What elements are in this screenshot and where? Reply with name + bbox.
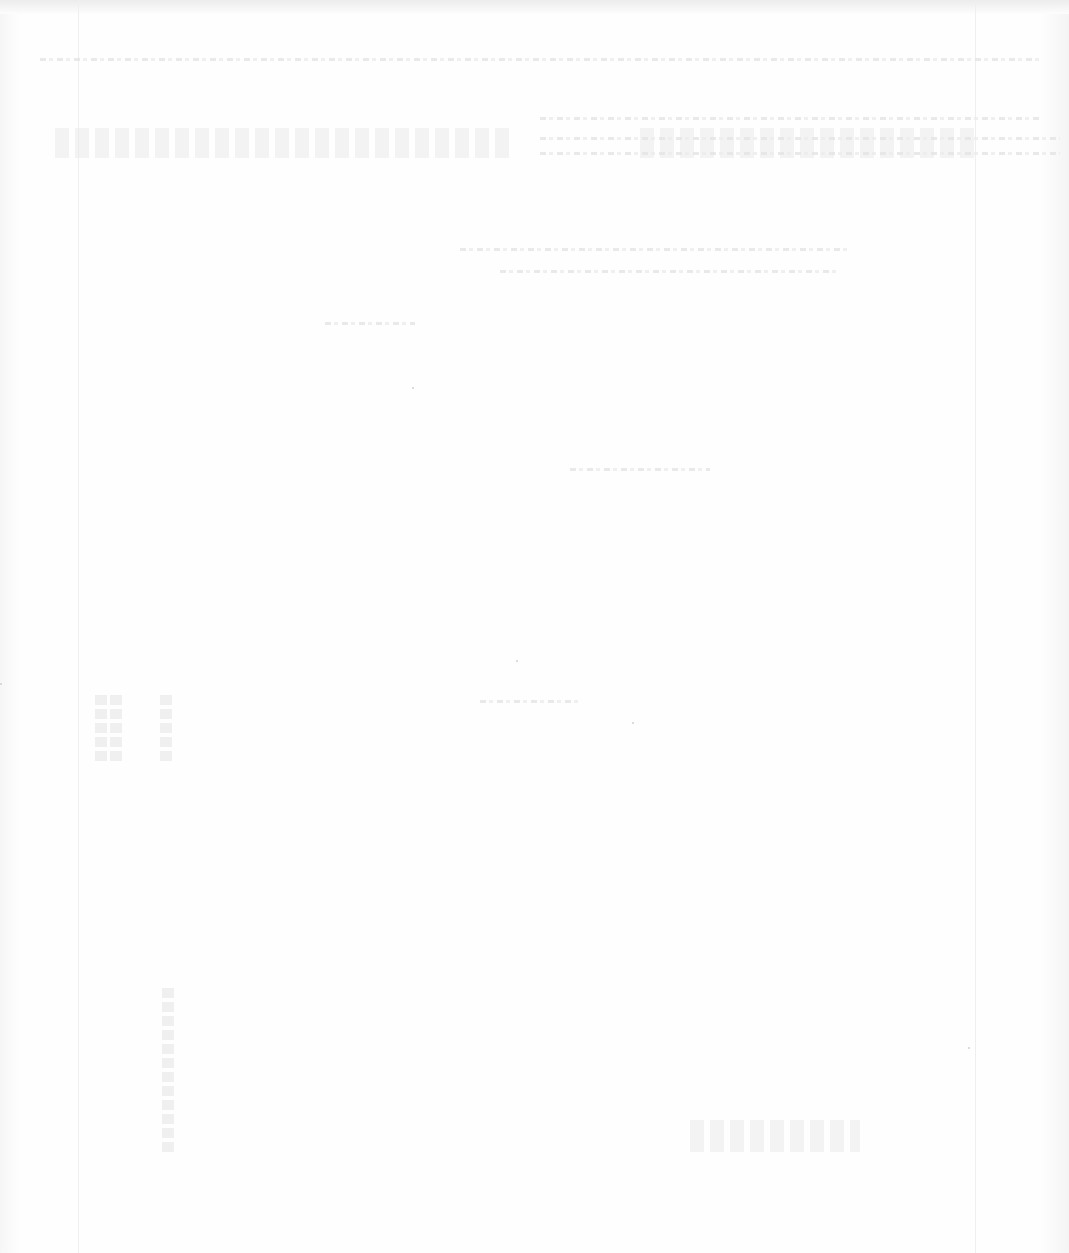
faint-text-line — [540, 137, 1060, 140]
scan-top-edge — [0, 0, 1069, 14]
faint-text-line — [500, 270, 840, 273]
faint-vertical-text — [110, 695, 122, 765]
faint-text-line — [460, 248, 850, 251]
faint-text-line — [480, 700, 580, 703]
scan-speck — [0, 683, 2, 685]
faint-vertical-text — [162, 988, 174, 1153]
faint-vertical-text — [160, 695, 172, 765]
faint-text-line — [325, 322, 415, 325]
faint-text-line — [570, 468, 710, 471]
faint-text-line — [540, 117, 1040, 120]
scan-speck — [412, 387, 414, 389]
left-margin-rule — [78, 0, 79, 1253]
scan-speck — [968, 1047, 970, 1049]
faint-heading-left — [55, 128, 515, 158]
right-margin-rule — [975, 0, 976, 1253]
faint-bottom-text — [690, 1120, 860, 1152]
scan-speck — [516, 660, 518, 662]
faint-text-line — [540, 152, 1060, 155]
scanned-page — [0, 0, 1069, 1253]
scan-speck — [632, 722, 634, 724]
faint-vertical-text — [95, 695, 107, 765]
faint-header-text-line — [40, 58, 1040, 61]
